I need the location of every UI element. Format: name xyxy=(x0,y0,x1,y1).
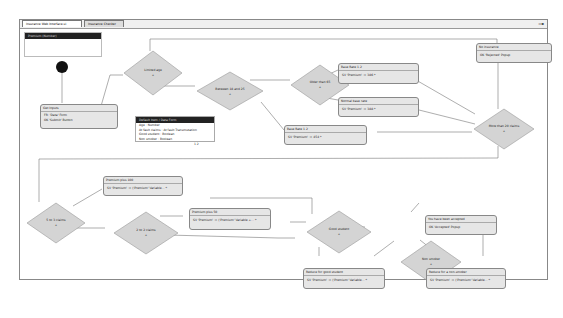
connectors xyxy=(20,28,549,281)
node-row: OK 'Accepted' Popup xyxy=(426,223,496,231)
node-row-button: OK 'Submit' Button xyxy=(41,118,117,122)
tab-insurance-checker[interactable]: Insurance Checker xyxy=(84,20,124,27)
decision-5-claims[interactable]: 5 to 3 claims + xyxy=(26,202,86,244)
node-row: SV 'Premium' := ('Premium' Variable... * xyxy=(104,184,182,192)
decision-marker: + xyxy=(26,223,86,227)
decision-2-claims[interactable]: 2 to 2 claims + xyxy=(113,211,179,255)
node-row: SV 'Premium' := ('Premium' Variable... * xyxy=(427,276,505,284)
decision-marker: + xyxy=(113,233,179,237)
decision-label: Non smoker xyxy=(400,257,462,261)
decision-label: 5 to 3 claims xyxy=(26,218,86,222)
node-title: Normal base rate xyxy=(339,98,418,105)
decision-label: Between 18 and 25 xyxy=(196,87,264,91)
decision-marker: + xyxy=(290,85,350,89)
decision-label: More than 20 claims xyxy=(473,124,535,128)
decision-label: Limited age xyxy=(123,68,183,72)
node-title: Reduce for a non-smoker xyxy=(427,269,505,276)
node-row: SV 'Premium' := ('Premium' Variable +...… xyxy=(190,216,270,224)
decision-more-than-20-claims[interactable]: More than 20 claims + xyxy=(473,108,535,150)
node-premium-plus-50[interactable]: Premium plus 50 SV 'Premium' := ('Premiu… xyxy=(189,208,271,230)
decision-label: Good student xyxy=(306,227,372,231)
node-row: SV 'Premium' := 386 * xyxy=(339,71,418,79)
node-base-rate-a[interactable]: Base Rate 1.2 SV 'Premium' := 386 * xyxy=(338,63,419,84)
popup-pager[interactable]: 1 2 xyxy=(194,142,199,146)
node-row: OK 'Rejected' Popup xyxy=(477,51,551,59)
decision-marker: + xyxy=(196,92,264,96)
decision-limited-age[interactable]: Limited age + xyxy=(123,50,183,96)
node-no-insurance[interactable]: No insurance OK 'Rejected' Popup xyxy=(476,43,552,63)
start-node[interactable] xyxy=(56,61,68,73)
node-title: Premium plus 50 xyxy=(190,209,270,216)
node-normal-base-rate[interactable]: Normal base rate SV 'Premium' := 388 * xyxy=(338,97,419,117)
node-row: SV 'Premium' := 454 * xyxy=(285,133,366,141)
premium-variable-title: Premium (Number) xyxy=(25,33,101,39)
node-reduce-good-student[interactable]: Reduce for good student SV 'Premium' := … xyxy=(303,268,385,289)
decision-marker: + xyxy=(123,73,183,77)
decision-good-student[interactable]: Good student + xyxy=(306,210,372,254)
tab-insurance-web-interface[interactable]: Insurance Web Interface.ui xyxy=(22,20,82,27)
decision-between-18-25[interactable]: Between 18 and 25 + xyxy=(196,71,264,111)
decision-marker: + xyxy=(473,129,535,133)
node-title: Get Inputs xyxy=(41,105,117,112)
node-reduce-non-smoker[interactable]: Reduce for a non-smoker SV 'Premium' := … xyxy=(426,268,506,289)
diagram-canvas: Premium (Number) Get Inputs FR: 'Data' F… xyxy=(20,28,547,279)
node-row: SV 'Premium' := ('Premium' Variable... * xyxy=(304,276,384,284)
node-title: You have been accepted xyxy=(426,216,496,223)
data-form-popup: Default Item / Data Form Age : Number At… xyxy=(135,116,215,142)
node-base-rate-b[interactable]: Base Rate 1.2 SV 'Premium' := 454 * xyxy=(284,125,367,145)
premium-variable-panel[interactable]: Premium (Number) xyxy=(24,32,102,57)
popup-row: Non smoker : Boolean xyxy=(136,137,214,142)
node-title: Reduce for good student xyxy=(304,269,384,276)
node-title: No insurance xyxy=(477,44,551,51)
editor-window: Insurance Web Interface.ui Insurance Che… xyxy=(19,19,548,280)
decision-marker: + xyxy=(400,262,462,266)
node-accepted[interactable]: You have been accepted OK 'Accepted' Pop… xyxy=(425,215,497,235)
decision-label: 2 to 2 claims xyxy=(113,228,179,232)
node-title: Base Rate 1.2 xyxy=(339,64,418,71)
window-controls-icon[interactable]: ▫▪ xyxy=(539,21,544,26)
node-row: SV 'Premium' := 388 * xyxy=(339,105,418,113)
node-title: Premium plus 100 xyxy=(104,177,182,184)
node-title: Base Rate 1.2 xyxy=(285,126,366,133)
node-premium-plus-100[interactable]: Premium plus 100 SV 'Premium' := ('Premi… xyxy=(103,176,183,196)
decision-marker: + xyxy=(306,232,372,236)
node-get-inputs[interactable]: Get Inputs FR: 'Data' Form OK 'Submit' B… xyxy=(40,104,118,129)
